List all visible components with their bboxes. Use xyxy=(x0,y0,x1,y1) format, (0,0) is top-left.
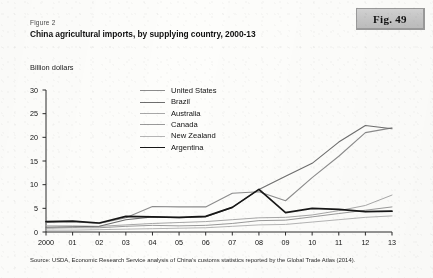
y-tick-label: 20 xyxy=(22,133,38,142)
y-tick-label: 15 xyxy=(22,157,38,166)
y-tick-label: 30 xyxy=(22,86,38,95)
x-tick-label: 03 xyxy=(113,238,139,247)
x-tick-label: 05 xyxy=(166,238,192,247)
x-tick-label: 02 xyxy=(86,238,112,247)
legend-item-new-zealand: New Zealand xyxy=(140,131,217,142)
legend-item-label: Australia xyxy=(171,110,201,118)
x-tick-label: 01 xyxy=(60,238,86,247)
legend-item-canada: Canada xyxy=(140,119,217,130)
legend-swatch-icon xyxy=(140,136,165,137)
x-tick-label: 12 xyxy=(352,238,378,247)
legend-item-label: New Zealand xyxy=(171,132,216,140)
x-tick-label: 04 xyxy=(139,238,165,247)
x-tick-label: 06 xyxy=(193,238,219,247)
legend-swatch-icon xyxy=(140,90,165,91)
x-tick-label: 2000 xyxy=(33,238,59,247)
legend-item-label: United States xyxy=(171,87,217,95)
legend-item-brazil: Brazil xyxy=(140,96,217,107)
chart-legend: United StatesBrazilAustraliaCanadaNew Ze… xyxy=(140,85,217,153)
legend-swatch-icon xyxy=(140,124,165,125)
x-tick-label: 13 xyxy=(379,238,405,247)
figure-badge-label: Fig. 49 xyxy=(373,13,407,25)
y-tick-label: 5 xyxy=(22,204,38,213)
legend-item-label: Canada xyxy=(171,121,198,129)
source-note: Source: USDA, Economic Research Service … xyxy=(30,256,390,265)
series-line-argentina xyxy=(46,189,392,223)
legend-item-argentina: Argentina xyxy=(140,142,217,153)
legend-item-label: Brazil xyxy=(171,98,190,106)
legend-item-australia: Australia xyxy=(140,108,217,119)
y-tick-label: 0 xyxy=(22,228,38,237)
legend-swatch-icon xyxy=(140,147,165,148)
x-tick-label: 07 xyxy=(219,238,245,247)
legend-item-united-states: United States xyxy=(140,85,217,96)
legend-item-label: Argentina xyxy=(171,144,204,152)
y-tick-label: 10 xyxy=(22,180,38,189)
legend-swatch-icon xyxy=(140,113,165,114)
y-tick-label: 25 xyxy=(22,109,38,118)
x-tick-label: 08 xyxy=(246,238,272,247)
x-tick-label: 11 xyxy=(326,238,352,247)
legend-swatch-icon xyxy=(140,102,165,103)
figure-badge: Fig. 49 xyxy=(356,8,425,30)
x-tick-label: 09 xyxy=(273,238,299,247)
x-tick-label: 10 xyxy=(299,238,325,247)
